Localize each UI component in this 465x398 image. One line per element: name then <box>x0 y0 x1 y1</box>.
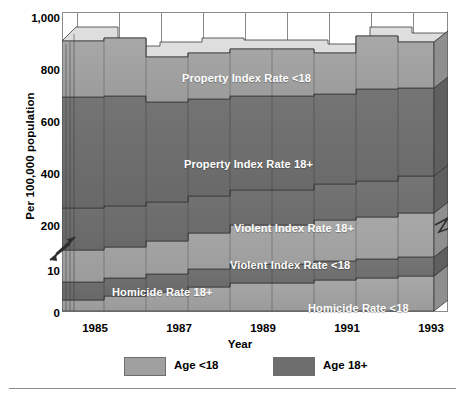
legend-swatch-age-under18 <box>124 357 166 376</box>
plot-area: Property Index Rate <18 Property Index R… <box>62 12 448 312</box>
band-label-violent-under18: Violent Index Rate <18 <box>230 259 350 271</box>
y-tick-800: 800 <box>8 65 60 76</box>
y-tick-400: 400 <box>8 169 60 180</box>
legend-label-age-under18: Age <18 <box>174 359 218 371</box>
band-label-violent-18plus: Violent Index Rate 18+ <box>234 222 354 234</box>
y-tick-1000: 1,000 <box>8 13 60 24</box>
legend: Age <18 Age 18+ <box>0 356 465 380</box>
x-tick-1993: 1993 <box>409 322 453 334</box>
x-tick-1991: 1991 <box>325 322 369 334</box>
y-tick-0: 0 <box>8 308 60 319</box>
axis-break-left-icon <box>46 232 80 266</box>
x-tick-1989: 1989 <box>241 322 285 334</box>
band-label-homicide-under18: Homicide Rate <18 <box>308 302 409 314</box>
y-tick-600: 600 <box>8 117 60 128</box>
band-label-property-18plus: Property Index Rate 18+ <box>184 158 313 170</box>
x-axis-title: Year <box>180 338 300 350</box>
legend-label-age-18plus: Age 18+ <box>323 359 367 371</box>
y-axis-tick-labels: 1,000 800 600 400 200 10 0 <box>4 0 60 340</box>
band-label-property-under18: Property Index Rate <18 <box>182 72 311 84</box>
y-tick-10: 10 <box>8 266 60 277</box>
figure: Per 100,000 population 1,000 800 600 400… <box>0 0 465 398</box>
legend-swatch-age-18plus <box>273 357 315 376</box>
footer-rule <box>9 388 456 389</box>
x-tick-1985: 1985 <box>73 322 117 334</box>
x-tick-1987: 1987 <box>157 322 201 334</box>
y-tick-200: 200 <box>8 221 60 232</box>
band-label-homicide-18plus: Homicide Rate 18+ <box>112 286 213 298</box>
